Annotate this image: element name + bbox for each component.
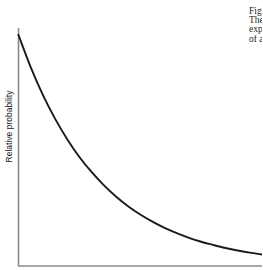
caption-line-3: exponential <box>249 25 262 34</box>
plot-area: Relative probability <box>0 0 262 271</box>
plot-svg <box>0 0 262 271</box>
figure-caption: Figure The exponential of a <box>249 7 262 44</box>
figure-root: Relative probability Figure The exponent… <box>0 0 262 271</box>
caption-line-2: The <box>249 16 262 25</box>
y-axis-title: Relative probability <box>2 0 16 262</box>
caption-line-1: Figure <box>249 7 262 16</box>
y-axis-title-container: Relative probability <box>2 0 16 262</box>
caption-line-4: of a <box>249 35 262 44</box>
decay-curve <box>19 35 263 254</box>
